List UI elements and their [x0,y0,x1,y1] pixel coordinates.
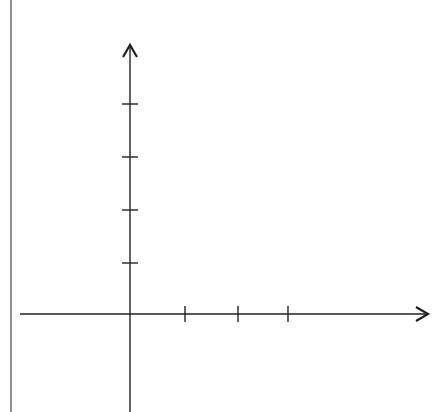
y-axis [122,45,138,412]
x-axis [20,306,428,322]
coordinate-plane [0,0,436,412]
